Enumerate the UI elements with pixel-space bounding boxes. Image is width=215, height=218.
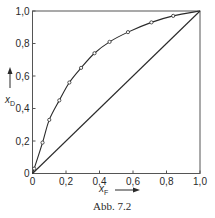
data-markers <box>33 14 175 170</box>
data-point-marker <box>172 14 175 17</box>
data-point-marker <box>68 81 71 84</box>
x-tick-label: 0,2 <box>59 176 73 187</box>
data-point-marker <box>48 118 51 121</box>
data-point-marker <box>150 21 153 24</box>
x-tick-label: 0,8 <box>160 176 174 187</box>
y-tick-label: 1,0 <box>16 6 30 17</box>
x-tick-label: 0 <box>30 176 36 187</box>
data-point-marker <box>93 52 96 55</box>
data-point-marker <box>79 66 82 69</box>
y-tick-label: 0,4 <box>16 103 30 114</box>
data-point-marker <box>126 31 129 34</box>
y-tick-label: 0,6 <box>16 71 30 82</box>
diagonal-line <box>33 11 201 174</box>
y-axis-arrowhead-icon <box>8 67 13 74</box>
y-tick-label: 0,2 <box>16 136 30 147</box>
tick-labels: 000,20,20,40,40,60,60,80,81,01,0 <box>16 6 208 187</box>
x-tick-label: 0,6 <box>126 176 140 187</box>
figure-caption: Abb. 7.2 <box>93 200 131 212</box>
chart: 000,20,20,40,40,60,60,80,81,01,0 xD xF A… <box>0 0 215 218</box>
svg-text:xF: xF <box>98 183 108 196</box>
data-point-marker <box>108 40 111 43</box>
y-tick-label: 0,8 <box>16 38 30 49</box>
x-axis-arrowhead-icon <box>133 188 140 193</box>
y-axis-label: xD <box>4 67 15 107</box>
data-point-marker <box>41 141 44 144</box>
x-tick-label: 1,0 <box>193 176 207 187</box>
data-point-marker <box>33 167 36 170</box>
y-tick-label: 0 <box>24 168 30 179</box>
data-point-marker <box>58 99 61 102</box>
svg-text:xD: xD <box>4 94 15 107</box>
